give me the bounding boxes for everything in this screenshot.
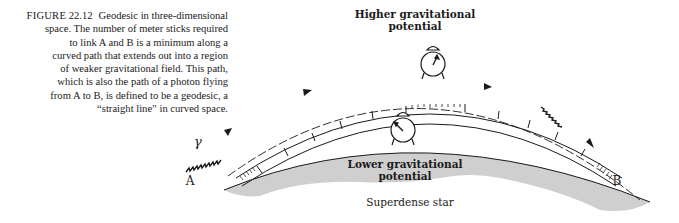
graduated-meter-stick (412, 104, 460, 108)
path-arrow-2 (484, 83, 492, 90)
geodesic-diagram (0, 0, 679, 223)
photon-arrow-a (224, 128, 232, 136)
photon-arrow-b (586, 138, 594, 148)
point-b-label: B (610, 175, 624, 187)
path-arrow-1 (303, 89, 312, 96)
photon-gamma-label: γ (192, 136, 204, 148)
point-a-label: A (183, 175, 197, 187)
photon-wave-a (186, 160, 221, 172)
lower-potential-label: Lower gravitational potential (345, 158, 465, 182)
higher-potential-label: Higher gravitational potential (350, 8, 480, 32)
photon-wave-b (541, 107, 562, 127)
superdense-star-label: Superdense star (355, 196, 465, 208)
upper-clock-icon (421, 47, 445, 80)
lower-clock-icon (391, 113, 415, 146)
